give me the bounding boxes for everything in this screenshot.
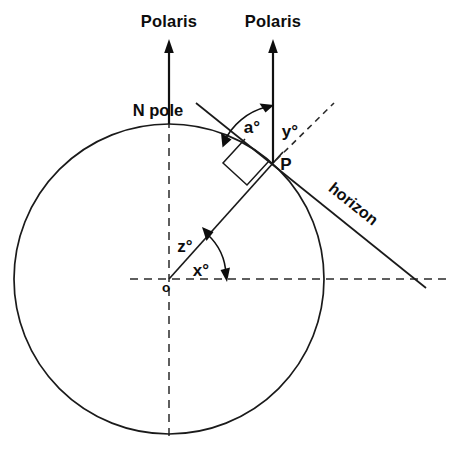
angle-x-arrowhead-bottom bbox=[221, 268, 231, 283]
north-pole-label: N pole bbox=[133, 101, 183, 119]
radius-op-line bbox=[169, 152, 283, 279]
angle-x-label: x° bbox=[193, 261, 209, 280]
angle-z-label: z° bbox=[177, 237, 193, 256]
right-angle-marker bbox=[223, 139, 269, 185]
angle-x-arc bbox=[207, 234, 226, 275]
horizon-label: horizon bbox=[326, 179, 382, 228]
polaris-label-right: Polaris bbox=[245, 12, 301, 30]
polaris-label-left: Polaris bbox=[141, 12, 197, 30]
polaris-arrow-right-head bbox=[268, 39, 278, 53]
angle-a-label: a° bbox=[244, 118, 260, 137]
polaris-arrow-left-head bbox=[164, 39, 174, 53]
figure-container: Polaris Polaris N pole a° y° P z° x° o h… bbox=[0, 0, 455, 449]
angle-y-label: y° bbox=[282, 122, 298, 141]
diagram-canvas: Polaris Polaris N pole a° y° P z° x° o h… bbox=[0, 0, 455, 449]
origin-label: o bbox=[162, 280, 170, 295]
point-p-label: P bbox=[280, 155, 291, 174]
